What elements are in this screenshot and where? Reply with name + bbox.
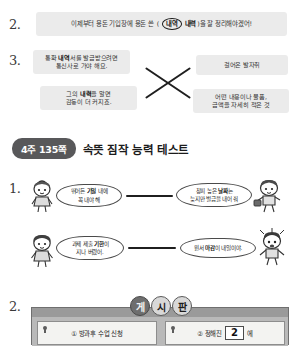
question-number-2-top: 2. <box>9 17 20 32</box>
q1-bubble-right-1[interactable]: 창피 높은 날짜는 늦지만 벌금을 내어 줘 <box>176 183 252 207</box>
character-boy-1-svg <box>253 177 285 213</box>
q2-open-paren: ( <box>157 20 159 29</box>
section-header: 4주 135쪽 속뜻 짐작 능력 테스트 <box>12 138 189 159</box>
question-number-2-bottom: 2. <box>9 299 20 314</box>
q1-bubble-left-1[interactable]: 뛰어든 기일 내에 꼭 내야 해 <box>56 184 122 207</box>
board-title-char-3: 판 <box>172 296 192 316</box>
q3-left-item-1-text: 통화 내역서를 발급받으려면 통신사로 가야 해요. <box>45 54 118 71</box>
q1-connector-line-2 <box>128 247 176 249</box>
q3-right-item-2-text: 어떤 내용이나 물품, 금액을 자세히 적은 것 <box>212 93 270 110</box>
q1-bubble-left-1-text: 뛰어든 기일 내에 꼭 내야 해 <box>71 187 108 203</box>
q2-answer-strip: 이제부터 용돈 기입장에 용돈 쓴 ( 내역 내력 )을 잘 정리해야겠어! <box>36 12 287 36</box>
q1-bubble-left-2-text: 과제 제출 기한이 지나 버렸어. <box>72 240 109 256</box>
pushpin-icon-2 <box>171 326 175 330</box>
board-title-char-2: 시 <box>151 296 171 316</box>
q2-suffix-text: )을 잘 정리해야겠어! <box>197 20 252 29</box>
q2-circled-choice[interactable]: 내역 <box>162 18 182 29</box>
board-card-2[interactable]: ② 정해진 2 에 <box>165 321 285 345</box>
character-boy-2-svg <box>256 228 288 266</box>
pushpin-icon-1 <box>43 326 47 330</box>
character-girl-2 <box>27 232 57 272</box>
q3-left-item-2[interactable]: 그의 내력을 알면 감동이 더 커지죠. <box>40 86 137 110</box>
q1-bubble-right-2-text: 원서 마감이 내일이야. <box>194 244 242 252</box>
q2-alternate-choice[interactable]: 내력 <box>185 20 197 29</box>
board-card-2-label-post: 에 <box>247 329 253 338</box>
section-title: 속뜻 짐작 능력 테스트 <box>83 141 189 157</box>
q3-right-item-1-text: 걸어온 발자취 <box>224 61 261 69</box>
character-girl-2-svg <box>27 232 57 268</box>
board-card-2-answer-blank[interactable]: 2 <box>225 326 244 341</box>
section-badge: 4주 135쪽 <box>12 138 76 159</box>
q3-left-item-1[interactable]: 통화 내역서를 발급받으려면 통신사로 가야 해요. <box>33 50 130 74</box>
q1-bubble-right-1-text: 창피 높은 날짜는 늦지만 벌금을 내어 줘 <box>190 187 238 203</box>
character-boy-1 <box>253 177 285 217</box>
character-girl-1-svg <box>27 179 57 213</box>
board-card-1[interactable]: ① 방과후 수업 신청 <box>37 321 157 345</box>
question-number-3: 3. <box>9 53 20 68</box>
question-number-1: 1. <box>9 181 20 196</box>
q3-right-item-1[interactable]: 걸어온 발자취 <box>196 55 288 75</box>
board-card-2-label-pre: ② 정해진 <box>197 329 222 338</box>
q1-connector-line-1 <box>126 195 173 197</box>
q1-bubble-left-2[interactable]: 과제 제출 기한이 지나 버렸어. <box>56 236 124 260</box>
board-title-char-1: 게 <box>130 296 150 316</box>
character-boy-2 <box>256 228 288 270</box>
character-girl-1 <box>27 179 57 217</box>
q3-left-item-2-text: 그의 내력을 알면 감동이 더 커지죠. <box>66 90 112 107</box>
q2-prefix-text: 이제부터 용돈 기입장에 용돈 쓴 <box>71 20 154 29</box>
q1-bubble-right-2[interactable]: 원서 마감이 내일이야. <box>180 238 256 258</box>
q3-right-item-2[interactable]: 어떤 내용이나 물품, 금액을 자세히 적은 것 <box>193 89 289 113</box>
board-card-1-label: ① 방과후 수업 신청 <box>71 329 123 338</box>
bulletin-board-title: 게 시 판 <box>130 296 192 316</box>
